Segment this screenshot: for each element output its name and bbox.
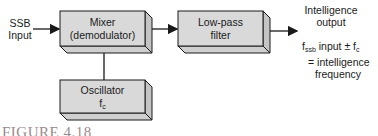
equation-line2: = intelligence	[302, 56, 378, 68]
mixer-block: Mixer (demodulator)	[60, 16, 145, 42]
eq-input-pm: input ± f	[316, 40, 356, 52]
input-label-line1: SSB	[4, 17, 36, 29]
eq-c-sub: c	[356, 46, 360, 53]
figure-caption: FIGURE 4.18	[2, 124, 92, 136]
lowpass-subtitle: filter	[178, 29, 263, 42]
equation-line3: frequency	[302, 68, 378, 80]
intelligence-output-label: Intelligence output	[296, 4, 366, 28]
frequency-equation: fssb input ± fc = intelligence frequency	[302, 40, 378, 80]
lowpass-filter-block: Low-pass filter	[178, 16, 263, 42]
oscillator-block: Oscillator fc	[60, 84, 145, 113]
input-label-line2: Input	[4, 29, 36, 41]
eq-ssb-sub: ssb	[305, 46, 316, 53]
oscillator-title: Oscillator	[60, 84, 145, 97]
output-label-line1: Intelligence	[296, 4, 366, 16]
mixer-subtitle: (demodulator)	[60, 29, 145, 42]
ssb-input-label: SSB Input	[4, 17, 36, 41]
oscillator-frequency: fc	[60, 97, 145, 113]
mixer-title: Mixer	[60, 16, 145, 29]
output-label-line2: output	[296, 16, 366, 28]
equation-line1: fssb input ± fc	[302, 40, 378, 56]
oscillator-f-subscript: c	[102, 103, 106, 110]
lowpass-title: Low-pass	[178, 16, 263, 29]
